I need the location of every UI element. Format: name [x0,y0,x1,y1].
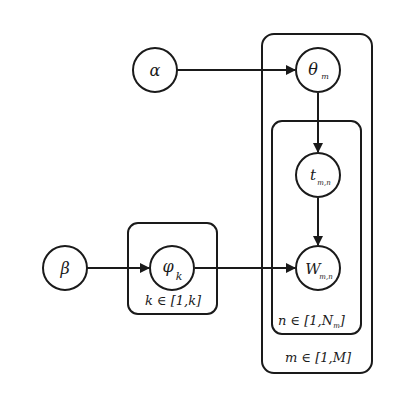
node-w-sub: m,n [319,273,333,281]
plate-n-label: n ∈ [1,Nm] [278,313,346,330]
node-beta: β [43,246,87,290]
node-phi-label: φ [162,257,174,276]
node-w: W m,n [296,246,340,290]
node-beta-label: β [59,259,69,278]
node-t-sub: m,n [317,179,331,187]
node-alpha: α [133,48,177,92]
node-theta: θ m [296,48,340,92]
plate-m-label: m ∈ [1,M] [285,350,352,365]
plate-diagram: α θ m t m,n W m,n β φ k k ∈ [1,k] n ∈ [1… [0,0,400,401]
node-t: t m,n [296,153,340,197]
plate-n-label-main: n ∈ [1,N [278,313,334,328]
plate-k-label: k ∈ [1,k] [145,293,202,308]
node-theta-sub: m [321,72,329,81]
node-phi: φ k [150,246,194,290]
node-alpha-label: α [150,61,161,80]
plate-n-label-close: ] [339,313,346,328]
node-t-label: t [310,166,317,184]
node-theta-label: θ [308,60,318,79]
node-phi-sub: k [176,270,183,283]
